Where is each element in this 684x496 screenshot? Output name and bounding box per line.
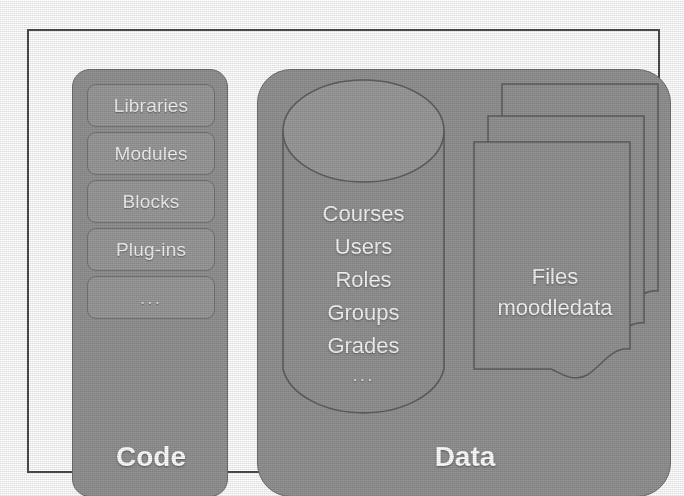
code-item-plugins[interactable]: Plug-ins — [87, 228, 215, 271]
database-entry: Users — [282, 230, 445, 263]
code-item-label: Plug-ins — [116, 239, 186, 261]
code-item-libraries[interactable]: Libraries — [87, 84, 215, 127]
code-item-more[interactable]: ... — [87, 276, 215, 319]
code-item-label: Modules — [114, 143, 187, 165]
cylinder-top-ellipse — [283, 80, 444, 182]
database-entry: Grades — [282, 329, 445, 362]
database-entry: ... — [282, 362, 445, 388]
code-item-blocks[interactable]: Blocks — [87, 180, 215, 223]
code-item-label: Blocks — [122, 191, 179, 213]
code-item-modules[interactable]: Modules — [87, 132, 215, 175]
file-document-stack-shape — [469, 77, 659, 417]
database-entry: Roles — [282, 263, 445, 296]
code-panel-title: Code — [73, 441, 229, 473]
diagram-canvas: Libraries Modules Blocks Plug-ins ... Co… — [0, 0, 684, 496]
document-sheet-front — [474, 142, 630, 378]
figure-frame: Libraries Modules Blocks Plug-ins ... Co… — [27, 29, 660, 473]
file-store-label: Files — [475, 261, 635, 292]
code-item-label: Libraries — [114, 95, 189, 117]
code-item-label: ... — [140, 287, 162, 309]
file-document-stack: Files moodledata — [469, 77, 659, 417]
database-cylinder: Courses Users Roles Groups Grades ... — [282, 79, 445, 421]
code-panel: Libraries Modules Blocks Plug-ins ... Co… — [72, 69, 228, 496]
database-entry: Courses — [282, 197, 445, 230]
file-store-label: moodledata — [475, 292, 635, 323]
database-entry-list: Courses Users Roles Groups Grades ... — [282, 197, 445, 388]
data-panel-title: Data — [258, 441, 672, 473]
database-entry: Groups — [282, 296, 445, 329]
